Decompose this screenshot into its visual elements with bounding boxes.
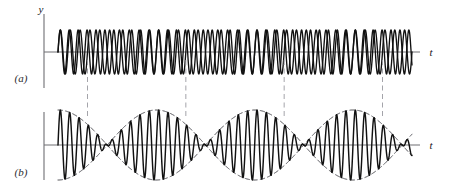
panel-a-y-axis-label: y bbox=[38, 3, 44, 15]
figure-canvas: y t (a) t (b) bbox=[0, 0, 453, 193]
panel-a-t-axis-label: t bbox=[429, 46, 433, 58]
panel-b: t (b) bbox=[15, 110, 434, 180]
panel-b-label: (b) bbox=[15, 166, 28, 179]
panel-b-t-axis-label: t bbox=[429, 139, 433, 151]
panel-a: y t (a) bbox=[15, 3, 434, 88]
panel-a-label: (a) bbox=[15, 72, 28, 85]
beats-figure: y t (a) t (b) bbox=[0, 0, 453, 193]
